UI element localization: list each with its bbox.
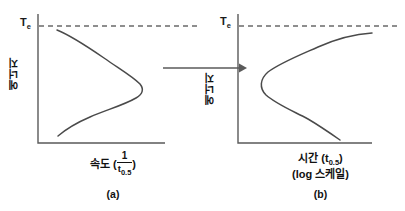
panel-a-x-label-close: ) bbox=[132, 158, 136, 170]
panel-a-x-label-text: 속도 ( bbox=[90, 158, 117, 170]
panel-b-te-label: Te bbox=[220, 16, 231, 30]
panel-b-axes bbox=[238, 14, 372, 143]
fraction-numerator: 1 bbox=[117, 151, 133, 162]
panel-a: Te 에너지 속도 (1t0.5) (a) bbox=[0, 0, 200, 211]
panel-b-y-axis-label: 에너지 bbox=[204, 72, 215, 105]
fraction-denominator: t0.5 bbox=[117, 164, 133, 177]
panel-b-x-label-line2: (log 스케일) bbox=[292, 168, 349, 180]
panel-a-axes bbox=[38, 14, 165, 143]
panel-a-y-axis-label: 에너지 bbox=[8, 57, 19, 90]
panel-a-x-axis-label: 속도 (1t0.5) bbox=[58, 152, 168, 177]
panel-a-caption: (a) bbox=[63, 188, 163, 200]
figure-container: Te 에너지 속도 (1t0.5) (a) Te 에너지 시간 (t0.5) (… bbox=[0, 0, 405, 211]
panel-b-x-label-line1: 시간 (t0.5) bbox=[298, 152, 343, 164]
panel-b-caption: (b) bbox=[263, 188, 378, 200]
panel-a-x-label-fraction: 1t0.5 bbox=[117, 151, 133, 176]
panel-b-curve bbox=[261, 33, 372, 140]
panel-b: Te 에너지 시간 (t0.5) (log 스케일) (b) bbox=[200, 0, 405, 211]
panel-b-x-axis-label: 시간 (t0.5) (log 스케일) bbox=[258, 152, 383, 181]
panel-a-curve bbox=[57, 30, 142, 136]
panel-a-te-label: Te bbox=[20, 17, 31, 31]
